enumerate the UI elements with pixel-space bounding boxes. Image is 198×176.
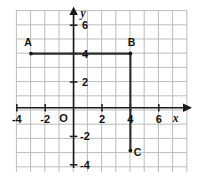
x-axis-tick-label-4: 4 xyxy=(127,113,134,125)
point-marker-a xyxy=(29,52,33,56)
y-axis-tick-label-2: 2 xyxy=(82,76,88,88)
point-label-b: B xyxy=(128,36,136,48)
origin-label: O xyxy=(59,112,68,124)
y-axis-tick-label-4: 4 xyxy=(82,48,89,60)
coordinate-plane-figure: -4 -2 2 4 6 6 4 2 -2 -4 O x y A B C xyxy=(0,0,198,176)
y-axis-tick-label-6: 6 xyxy=(82,19,88,31)
x-axis-tick-label--4: -4 xyxy=(12,113,23,125)
point-label-a: A xyxy=(24,36,32,48)
y-axis-tick-label--2: -2 xyxy=(80,130,90,142)
x-axis-name-label: x xyxy=(172,112,179,124)
figure-background xyxy=(0,0,198,176)
point-marker-b xyxy=(129,52,133,56)
x-axis-tick-label--2: -2 xyxy=(40,113,50,125)
y-axis-tick-label--4: -4 xyxy=(80,159,91,171)
coordinate-plane-svg: -4 -2 2 4 6 6 4 2 -2 -4 O x y A B C xyxy=(0,0,198,176)
point-label-c: C xyxy=(134,146,142,158)
point-marker-c xyxy=(129,149,133,153)
x-axis-tick-label-2: 2 xyxy=(99,113,105,125)
x-axis-tick-label-6: 6 xyxy=(156,113,162,125)
y-axis-name-label: y xyxy=(78,7,86,20)
